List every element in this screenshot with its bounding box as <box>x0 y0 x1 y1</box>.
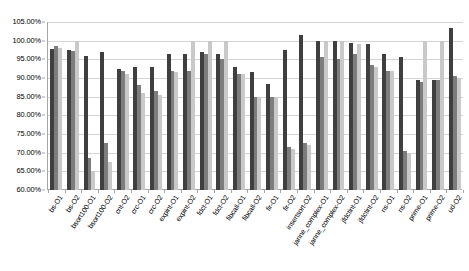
bar <box>307 145 311 190</box>
y-tick-label: 80.00% <box>17 111 41 119</box>
bar-group <box>231 22 248 190</box>
bar-group <box>380 22 397 190</box>
y-tick-label: 65.00% <box>17 167 41 175</box>
y-tick-label: 75.00% <box>17 130 41 138</box>
y-tick-label: 100.00% <box>13 37 41 45</box>
y-axis: 60.00%65.00%70.00%75.00%80.00%85.00%90.0… <box>0 22 45 190</box>
y-tick-mark <box>42 152 45 153</box>
bar-group <box>247 22 264 190</box>
y-tick-mark <box>42 59 45 60</box>
y-tick-label: 105.00% <box>13 18 41 26</box>
y-tick-mark <box>42 78 45 79</box>
bar-chart: 60.00%65.00%70.00%75.00%80.00%85.00%90.0… <box>0 0 469 271</box>
bar <box>291 149 295 190</box>
bar-group <box>214 22 231 190</box>
y-tick-mark <box>42 171 45 172</box>
bar <box>208 41 212 190</box>
bar-group <box>264 22 281 190</box>
bar-group <box>413 22 430 190</box>
bar-group <box>197 22 214 190</box>
bar <box>440 41 444 190</box>
bar <box>58 48 62 190</box>
bar <box>174 72 178 190</box>
y-tick-mark <box>42 40 45 41</box>
bar-group <box>446 22 463 190</box>
bar <box>191 41 195 190</box>
bar-group <box>164 22 181 190</box>
bar-group <box>65 22 82 190</box>
y-tick-mark <box>42 22 45 23</box>
bar-group <box>280 22 297 190</box>
bar <box>224 41 228 190</box>
bar-group <box>181 22 198 190</box>
y-tick-mark <box>42 190 45 191</box>
bar-group <box>397 22 414 190</box>
bar-group <box>148 22 165 190</box>
bar-group <box>81 22 98 190</box>
bar-group <box>430 22 447 190</box>
y-tick-label: 95.00% <box>17 55 41 63</box>
bar-group <box>48 22 65 190</box>
y-tick-mark <box>42 96 45 97</box>
y-tick-label: 90.00% <box>17 74 41 82</box>
y-tick-mark <box>42 134 45 135</box>
y-tick-mark <box>42 115 45 116</box>
bar <box>423 41 427 190</box>
y-tick-label: 60.00% <box>17 186 41 194</box>
bar <box>241 74 245 190</box>
bar-group <box>297 22 314 190</box>
bar <box>158 95 162 190</box>
bar <box>75 41 79 190</box>
y-tick-label: 70.00% <box>17 149 41 157</box>
x-tick <box>48 190 49 193</box>
bar <box>407 153 411 190</box>
x-axis-labels: bs-O1bs-O2bsort100-O1bsort100-O2cnt-O2cr… <box>0 194 469 271</box>
y-tick-label: 85.00% <box>17 93 41 101</box>
bar <box>141 93 145 190</box>
